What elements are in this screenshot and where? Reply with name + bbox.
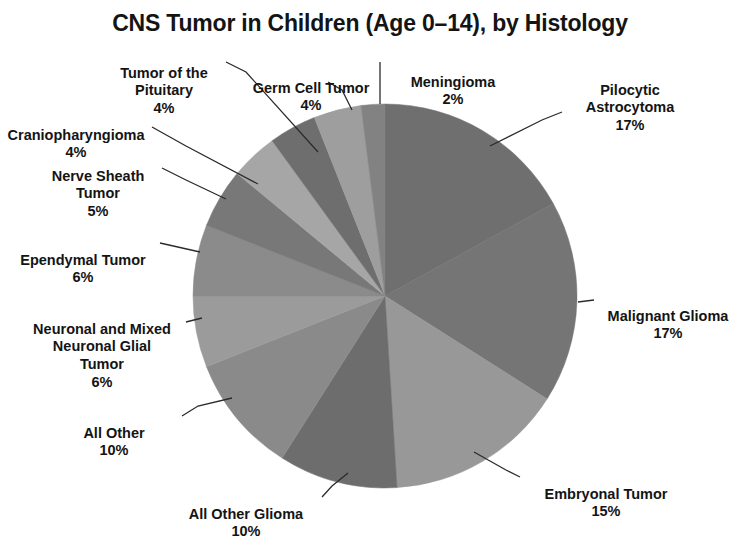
pie-chart-figure: CNS Tumor in Children (Age 0–14), by His…: [0, 0, 740, 545]
slice-label-ependymal-tumor: Ependymal Tumor 6%: [8, 234, 158, 305]
slice-label-embryonal-tumor: Embryonal Tumor 15%: [524, 468, 688, 539]
slice-pct-nerve-sheath-tumor: 5%: [38, 203, 158, 221]
slice-label-all-other-glioma: All Other Glioma 10%: [170, 488, 322, 545]
slice-pct-embryonal-tumor: 15%: [524, 503, 688, 521]
slice-label-neuronal-mixed: Neuronal and Mixed Neuronal Glial Tumor …: [16, 303, 188, 409]
slice-label-all-other: All Other 10%: [48, 407, 180, 478]
slice-label-text-germ-cell-tumor: Germ Cell Tumor: [253, 80, 370, 96]
slice-pct-craniopharyngioma: 4%: [2, 144, 150, 162]
slice-pct-pilocytic-astrocytoma: 17%: [540, 117, 720, 135]
slice-pct-all-other-glioma: 10%: [170, 523, 322, 541]
slice-label-text-ependymal-tumor: Ependymal Tumor: [20, 252, 145, 268]
pie-slices-group: [193, 104, 577, 488]
slice-pct-germ-cell-tumor: 4%: [238, 97, 384, 115]
slice-label-text-neuronal-mixed: Neuronal and Mixed Neuronal Glial Tumor: [33, 321, 171, 372]
slice-label-text-pilocytic-astrocytoma: Pilocytic Astrocytoma: [586, 82, 675, 116]
slice-label-text-malignant-glioma: Malignant Glioma: [608, 308, 729, 324]
slice-label-meningioma: Meningioma 2%: [392, 56, 514, 127]
slice-label-malignant-glioma: Malignant Glioma 17%: [596, 290, 740, 361]
slice-label-text-meningioma: Meningioma: [411, 74, 496, 90]
slice-pct-neuronal-mixed: 6%: [16, 374, 188, 392]
slice-label-text-tumor-of-the-pituitary: Tumor of the Pituitary: [120, 65, 208, 99]
slice-label-text-all-other: All Other: [83, 425, 144, 441]
leader-line-embryonal-tumor: [474, 452, 520, 477]
slice-pct-all-other: 10%: [48, 442, 180, 460]
leader-line-nerve-sheath-tumor: [162, 168, 226, 199]
slice-pct-meningioma: 2%: [392, 91, 514, 109]
leader-line-craniopharyngioma: [152, 127, 258, 184]
slice-pct-malignant-glioma: 17%: [596, 325, 740, 343]
slice-pct-tumor-of-the-pituitary: 4%: [104, 100, 224, 118]
slice-pct-ependymal-tumor: 6%: [8, 269, 158, 287]
slice-label-germ-cell-tumor: Germ Cell Tumor 4%: [238, 62, 384, 133]
slice-label-pilocytic-astrocytoma: Pilocytic Astrocytoma 17%: [540, 64, 720, 152]
leader-line-malignant-glioma: [578, 300, 594, 302]
slice-label-text-embryonal-tumor: Embryonal Tumor: [545, 486, 668, 502]
leader-line-ependymal-tumor: [160, 243, 200, 252]
slice-label-text-all-other-glioma: All Other Glioma: [189, 506, 303, 522]
slice-label-tumor-of-the-pituitary: Tumor of the Pituitary 4%: [104, 47, 224, 135]
